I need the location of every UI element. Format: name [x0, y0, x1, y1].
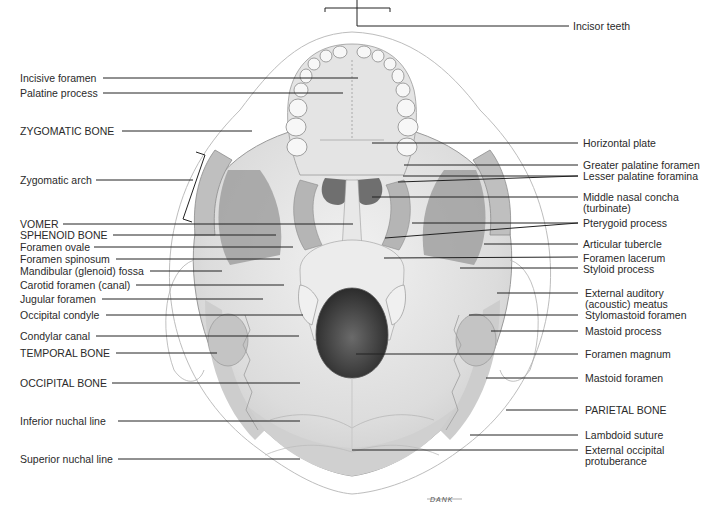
label-styloid-process: Styloid process [583, 263, 654, 275]
label-inferior-nuchal-line: Inferior nuchal line [20, 415, 106, 427]
label-jugular-foramen: Jugular foramen [20, 293, 96, 305]
label-protuberance: protuberance [585, 455, 647, 467]
label-mandibular-fossa: Mandibular (glenoid) fossa [20, 265, 144, 277]
label-turbinate: (turbinate) [583, 202, 631, 214]
label-occipital-condyle: Occipital condyle [20, 309, 99, 321]
label-mastoid-process: Mastoid process [585, 325, 661, 337]
label-superior-nuchal-line: Superior nuchal line [20, 453, 113, 465]
label-palatine-process: Palatine process [20, 87, 98, 99]
label-articular-tubercle: Articular tubercle [583, 238, 662, 250]
label-pterygoid-process: Pterygoid process [583, 217, 667, 229]
label-horizontal-plate: Horizontal plate [583, 137, 656, 149]
label-incisor-teeth: Incisor teeth [573, 20, 630, 32]
label-occipital-bone: OCCIPITAL BONE [20, 377, 107, 389]
label-incisive-foramen: Incisive foramen [20, 72, 96, 84]
label-condylar-canal: Condylar canal [20, 330, 90, 342]
label-foramen-spinosum: Foramen spinosum [20, 253, 110, 265]
label-foramen-magnum: Foramen magnum [585, 348, 671, 360]
label-stylomastoid-foramen: Stylomastoid foramen [585, 309, 687, 321]
label-zygomatic-bone: ZYGOMATIC BONE [20, 125, 114, 137]
label-zygomatic-arch: Zygomatic arch [20, 174, 92, 186]
label-sphenoid-bone: SPHENOID BONE [20, 229, 108, 241]
artist-signature: DANK [430, 496, 453, 503]
label-parietal-bone: PARIETAL BONE [585, 404, 667, 416]
label-foramen-ovale: Foramen ovale [20, 241, 90, 253]
label-mastoid-foramen: Mastoid foramen [585, 372, 663, 384]
label-lesser-palatine-foramina: Lesser palatine foramina [583, 170, 698, 182]
foramen-magnum [316, 288, 388, 378]
skull-diagram: Incisive foramen Palatine process ZYGOMA… [0, 0, 704, 517]
label-lambdoid-suture: Lambdoid suture [585, 429, 663, 441]
label-temporal-bone: TEMPORAL BONE [20, 347, 110, 359]
label-carotid-foramen: Carotid foramen (canal) [20, 279, 130, 291]
